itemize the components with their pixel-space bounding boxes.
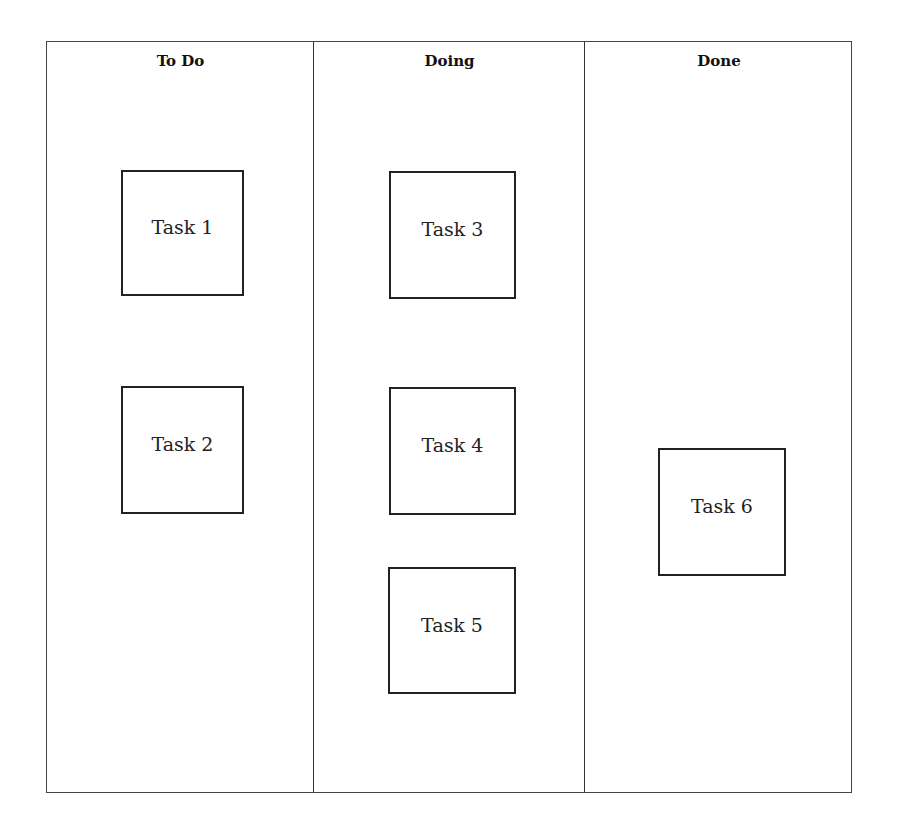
column-divider [313,42,314,792]
task-card-label: Task 6 [691,495,753,517]
column-title-done: Done [585,52,853,70]
task-card[interactable]: Task 4 [389,387,516,515]
task-card[interactable]: Task 6 [658,448,786,576]
task-card-label: Task 2 [152,433,214,455]
column-title-todo: To Do [47,52,314,70]
task-card[interactable]: Task 1 [121,170,244,296]
task-card[interactable]: Task 3 [389,171,516,299]
task-card-label: Task 3 [422,218,484,240]
task-card-label: Task 4 [422,434,484,456]
task-card-label: Task 1 [152,216,214,238]
task-card[interactable]: Task 5 [388,567,516,694]
task-card-label: Task 5 [421,614,483,636]
task-card[interactable]: Task 2 [121,386,244,514]
column-title-doing: Doing [314,52,585,70]
column-divider [584,42,585,792]
kanban-board: To Do Doing Done Task 1 Task 2 Task 3 Ta… [46,41,852,793]
